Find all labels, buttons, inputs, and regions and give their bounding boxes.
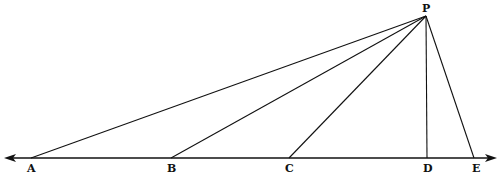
point-label-E: E xyxy=(472,162,480,175)
point-label-B: B xyxy=(167,162,176,175)
point-label-P: P xyxy=(422,2,430,15)
segment-PC xyxy=(289,16,426,158)
segment-PA xyxy=(31,16,426,158)
point-labels: PABCDE xyxy=(26,2,480,175)
point-label-A: A xyxy=(26,162,36,175)
segments xyxy=(31,16,474,158)
point-label-D: D xyxy=(423,162,433,175)
point-label-C: C xyxy=(285,162,294,175)
segment-PB xyxy=(171,16,426,158)
segment-PE xyxy=(426,16,474,158)
geometry-diagram: PABCDE xyxy=(0,0,501,176)
baseline-line xyxy=(4,154,497,162)
diagram-canvas: PABCDE xyxy=(0,0,501,176)
segment-PD xyxy=(426,16,427,158)
